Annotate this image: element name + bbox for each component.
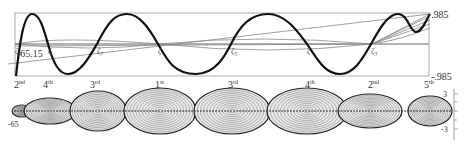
bottom-plot: 3 -3 -65 — [8, 88, 458, 140]
ordinal-label: 4th — [43, 79, 53, 90]
ordinal-label: 2nd — [14, 79, 25, 90]
top-left-label: -65.15 — [17, 48, 43, 59]
top-right-axis-top-label: .985 — [431, 9, 449, 20]
thin-lines — [8, 14, 430, 64]
crossing-label: ζ5 — [231, 47, 237, 57]
bottom-right-axis-bottom-label: -3 — [441, 125, 448, 134]
top-right-axis-bottom-label: -.985 — [431, 71, 452, 82]
crossing-label: ζ3 — [371, 47, 377, 57]
ordinal-label: 3rd — [90, 79, 100, 90]
crossing-label: ζ7 — [97, 47, 104, 57]
top-plot: ζ9ζζ7ζζ5ζζ3 2nd4th3rd1st3rd4th2nd5th .98… — [8, 9, 452, 90]
bottom-left-label: -65 — [8, 120, 19, 129]
ordinal-label: 2nd — [368, 79, 379, 90]
math-figure: ζ9ζζ7ζζ5ζζ3 2nd4th3rd1st3rd4th2nd5th .98… — [0, 0, 474, 146]
bottom-right-axis-top-label: 3 — [443, 90, 447, 99]
bottom-right-ticks — [454, 94, 458, 129]
